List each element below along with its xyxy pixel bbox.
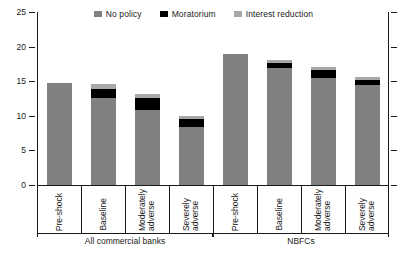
bar-segment-moratorium [91, 89, 116, 98]
y-tick-label: 25 [17, 7, 26, 17]
category-label: Pre-shock [55, 193, 64, 231]
bar-column [47, 83, 72, 185]
category-separator [37, 186, 38, 233]
y-tick-mark [29, 47, 35, 48]
y-tick-mark-right [391, 185, 397, 186]
y-axis-line [37, 12, 38, 185]
group-underline [37, 233, 213, 234]
y-tick-mark-right [391, 12, 397, 13]
bar-segment-no-policy [179, 127, 204, 185]
bar-segment-moratorium [311, 70, 336, 78]
bar-column [179, 116, 204, 185]
group-label: NBFCs [213, 236, 389, 246]
bar-segment-no-policy [311, 78, 336, 185]
y-tick-mark-right [391, 150, 397, 151]
category-separator [345, 186, 346, 233]
bar-column [355, 77, 380, 185]
bar-segment-no-policy [223, 54, 248, 185]
y-tick-mark-right [391, 47, 397, 48]
bar-segment-no-policy [267, 68, 292, 185]
bar-column [135, 94, 160, 185]
category-separator [81, 186, 82, 233]
category-separator [169, 186, 170, 233]
bar-segment-no-policy [135, 110, 160, 185]
group-underline [213, 233, 389, 234]
bar-column [223, 54, 248, 185]
bar-column [267, 60, 292, 185]
category-separator [125, 186, 126, 233]
category-label: Pre-shock [231, 193, 240, 231]
y-tick-label: 15 [17, 76, 26, 86]
category-axis: Pre-shockBaselineModerately adverseSever… [37, 186, 389, 233]
bar-segment-no-policy [91, 98, 116, 185]
category-separator [301, 186, 302, 233]
bar-segment-no-policy [47, 83, 72, 185]
category-separator [388, 186, 389, 233]
y-tick-label: 5 [21, 145, 26, 155]
category-label: Moderately adverse [138, 189, 156, 231]
bar-segment-moratorium [179, 119, 204, 127]
y-tick-label: 10 [17, 111, 26, 121]
category-label: Moderately adverse [314, 189, 332, 231]
y-tick-mark-right [391, 81, 397, 82]
chart-container: No policyMoratoriumInterest reduction 05… [0, 0, 407, 255]
category-label: Baseline [275, 198, 284, 231]
group-label: All commercial banks [37, 236, 213, 246]
bar-column [91, 84, 116, 185]
y-tick-mark [29, 185, 35, 186]
category-label: Baseline [99, 198, 108, 231]
y-tick-mark [29, 116, 35, 117]
category-label: Severely adverse [358, 198, 376, 231]
y-tick-mark-right [391, 116, 397, 117]
plot-area: 0510152025 [37, 12, 389, 185]
right-axis-line [388, 12, 389, 185]
category-label: Severely adverse [182, 198, 200, 231]
bar-segment-moratorium [135, 98, 160, 110]
y-tick-mark [29, 150, 35, 151]
y-tick-mark [29, 12, 35, 13]
category-separator [257, 186, 258, 233]
category-separator [213, 186, 214, 233]
y-tick-mark [29, 81, 35, 82]
y-tick-label: 0 [21, 180, 26, 190]
y-tick-label: 20 [17, 42, 26, 52]
bar-segment-no-policy [355, 85, 380, 185]
bar-column [311, 67, 336, 185]
